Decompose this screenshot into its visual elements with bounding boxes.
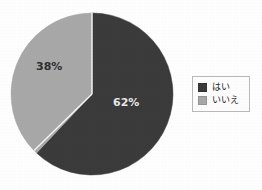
pie-data-label-yes: 62% [113, 96, 139, 109]
chart-legend: はい いいえ [192, 76, 250, 112]
pie-data-label-no: 38% [36, 60, 62, 73]
legend-item-yes[interactable]: はい [198, 81, 245, 94]
legend-swatch-yes [198, 83, 207, 92]
legend-label-yes: はい [212, 82, 230, 93]
legend-swatch-no [198, 96, 207, 105]
legend-label-no: いいえ [212, 95, 239, 106]
legend-item-no[interactable]: いいえ [198, 94, 245, 107]
pie-chart-figure: 38% 62% はい いいえ [0, 0, 262, 190]
